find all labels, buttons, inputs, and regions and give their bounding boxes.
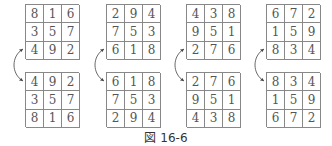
- magic-square-original: 8 1 6 3 5 7 4 9 2: [25, 4, 79, 59]
- cell: 7: [205, 42, 223, 60]
- cell: 6: [223, 73, 241, 91]
- magic-square-flipped: 6 1 8 7 5 3 2 9 4: [106, 72, 160, 127]
- cell: 7: [285, 110, 303, 128]
- cell: 1: [223, 91, 241, 109]
- cell: 5: [285, 91, 303, 109]
- cell: 4: [303, 42, 321, 60]
- cell: 8: [143, 73, 161, 91]
- cell: 3: [26, 91, 44, 109]
- cell: 2: [62, 42, 80, 60]
- cell: 9: [44, 42, 62, 60]
- cell: 8: [26, 110, 44, 128]
- cell: 1: [44, 110, 62, 128]
- cell: 6: [62, 110, 80, 128]
- cell: 3: [205, 5, 223, 23]
- cell: 3: [285, 73, 303, 91]
- cell: 5: [125, 91, 143, 109]
- cell: 2: [107, 5, 125, 23]
- cell: 3: [143, 23, 161, 41]
- cell: 2: [187, 42, 205, 60]
- cell: 9: [125, 5, 143, 23]
- cell: 8: [26, 5, 44, 23]
- cell: 2: [62, 73, 80, 91]
- cell: 7: [107, 91, 125, 109]
- cell: 5: [44, 23, 62, 41]
- cell: 6: [62, 5, 80, 23]
- magic-square-original: 4 3 8 9 5 1 2 7 6: [186, 4, 240, 59]
- cell: 5: [44, 91, 62, 109]
- magic-square-flipped: 8 3 4 1 5 9 6 7 2: [266, 72, 320, 127]
- cell: 1: [44, 5, 62, 23]
- cell: 8: [267, 42, 285, 60]
- cell: 6: [107, 73, 125, 91]
- cell: 7: [285, 5, 303, 23]
- cell: 3: [26, 23, 44, 41]
- cell: 2: [107, 110, 125, 128]
- cell: 1: [125, 73, 143, 91]
- cell: 5: [285, 23, 303, 41]
- cell: 7: [62, 91, 80, 109]
- figure-caption: 図 16-6: [0, 128, 332, 145]
- cell: 9: [303, 91, 321, 109]
- cell: 1: [267, 91, 285, 109]
- cell: 9: [187, 23, 205, 41]
- cell: 6: [223, 42, 241, 60]
- cell: 4: [187, 110, 205, 128]
- cell: 6: [267, 110, 285, 128]
- cell: 5: [205, 23, 223, 41]
- cell: 4: [26, 42, 44, 60]
- cell: 6: [107, 42, 125, 60]
- cell: 5: [205, 91, 223, 109]
- cell: 9: [187, 91, 205, 109]
- magic-square-pair-4: 6 7 2 1 5 9 8 3 4 8 3 4 1 5 9 6 7 2: [266, 0, 332, 130]
- cell: 3: [205, 110, 223, 128]
- cell: 8: [267, 73, 285, 91]
- cell: 9: [125, 110, 143, 128]
- cell: 4: [143, 5, 161, 23]
- cell: 7: [107, 23, 125, 41]
- cell: 2: [187, 73, 205, 91]
- cell: 6: [267, 5, 285, 23]
- cell: 8: [223, 110, 241, 128]
- cell: 8: [223, 5, 241, 23]
- cell: 4: [187, 5, 205, 23]
- cell: 1: [223, 23, 241, 41]
- cell: 1: [267, 23, 285, 41]
- cell: 7: [62, 23, 80, 41]
- cell: 9: [303, 23, 321, 41]
- cell: 3: [285, 42, 303, 60]
- cell: 9: [44, 73, 62, 91]
- cell: 4: [303, 73, 321, 91]
- magic-square-original: 6 7 2 1 5 9 8 3 4: [266, 4, 320, 59]
- magic-square-original: 2 9 4 7 5 3 6 1 8: [106, 4, 160, 59]
- cell: 1: [125, 42, 143, 60]
- cell: 8: [143, 42, 161, 60]
- cell: 4: [143, 110, 161, 128]
- cell: 7: [205, 73, 223, 91]
- cell: 3: [143, 91, 161, 109]
- cell: 2: [303, 5, 321, 23]
- cell: 2: [303, 110, 321, 128]
- magic-square-flipped: 4 9 2 3 5 7 8 1 6: [25, 72, 79, 127]
- magic-square-flipped: 2 7 6 9 5 1 4 3 8: [186, 72, 240, 127]
- cell: 4: [26, 73, 44, 91]
- cell: 5: [125, 23, 143, 41]
